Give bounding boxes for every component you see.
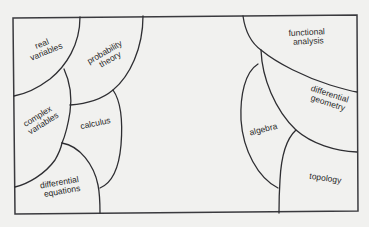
- label-real-variables: real variables: [25, 32, 64, 62]
- label-algebra: algebra: [248, 121, 278, 138]
- label-topology: topology: [309, 171, 343, 185]
- calculus-boundary: [100, 90, 122, 188]
- label-differential-equations: differential equations: [39, 174, 83, 200]
- mathematics-area-diagram: real variables probability theory comple…: [0, 0, 369, 227]
- label-probability-theory: probability theory: [85, 37, 130, 74]
- label-functional-analysis: functional analysis: [288, 26, 328, 47]
- label-complex-variables: complex variables: [21, 102, 60, 136]
- label-calculus: calculus: [79, 115, 111, 131]
- topology-boundary: [279, 130, 296, 213]
- complex-probability-divider: [62, 69, 71, 143]
- label-differential-geometry: differential geometry: [307, 83, 352, 114]
